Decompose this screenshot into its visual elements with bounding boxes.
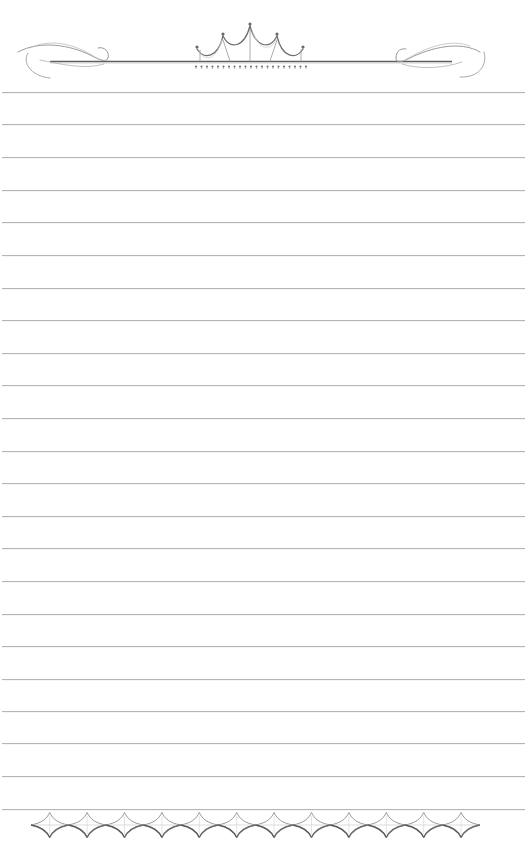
ruled-line [2, 222, 525, 223]
lined-paper-page [0, 0, 528, 864]
ruled-line [2, 124, 525, 125]
ruled-line [2, 353, 525, 354]
ruled-line [2, 483, 525, 484]
diamond-icon-row [31, 813, 480, 838]
ruled-line [2, 646, 525, 647]
ruled-line [2, 288, 525, 289]
ruled-line [2, 614, 525, 615]
ruled-line [2, 451, 525, 452]
ruled-line [2, 679, 525, 680]
ruled-line [2, 157, 525, 158]
ruled-line [2, 92, 525, 93]
ruled-line [2, 743, 525, 744]
ruled-line [2, 711, 525, 712]
ruled-line [2, 516, 525, 517]
ruled-line [2, 548, 525, 549]
ruled-line [2, 385, 525, 386]
ruled-line [2, 776, 525, 777]
ruled-line [2, 581, 525, 582]
ruled-line [2, 255, 525, 256]
ruled-line [2, 320, 525, 321]
ruled-line [2, 418, 525, 419]
ruled-line [2, 190, 525, 191]
ruled-lines [0, 0, 528, 864]
footer-diamond-border [0, 805, 528, 845]
